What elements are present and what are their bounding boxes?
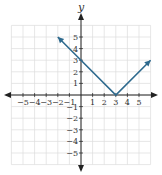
- x-tick-label: 4: [125, 98, 130, 107]
- x-tick-label: −4: [29, 98, 41, 107]
- x-tick-label: 1: [90, 98, 95, 107]
- y-tick-label: 2: [73, 68, 78, 77]
- y-tick-label: −5: [66, 149, 78, 158]
- x-tick-label: 3: [113, 98, 118, 107]
- y-tick-label: −4: [66, 137, 78, 146]
- y-axis-label: y: [77, 1, 85, 14]
- coordinate-plane: −5−4−3−2−11234554321−1−2−3−4−5 y: [0, 0, 162, 175]
- y-tick-label: 5: [73, 33, 78, 42]
- y-tick-label: −3: [66, 126, 78, 135]
- x-tick-label: −3: [40, 98, 52, 107]
- y-tick-label: 1: [73, 79, 78, 88]
- x-tick-label: −2: [52, 98, 64, 107]
- x-tick-label: 5: [136, 98, 141, 107]
- y-tick-label: −1: [66, 103, 78, 112]
- y-tick-label: −2: [66, 114, 78, 123]
- x-tick-label: −5: [17, 98, 29, 107]
- x-tick-label: 2: [102, 98, 107, 107]
